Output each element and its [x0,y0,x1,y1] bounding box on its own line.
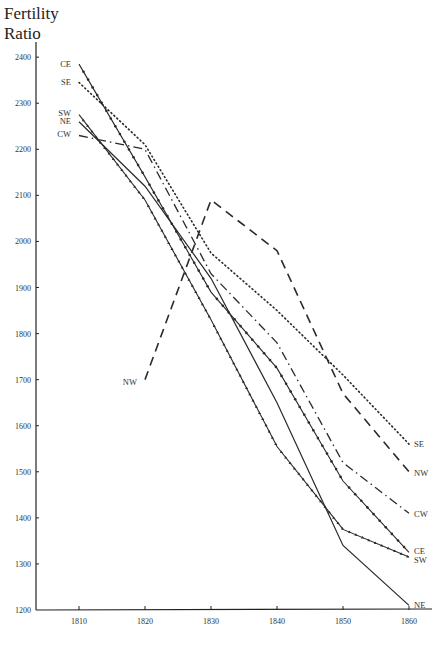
y-tick-label: 1800 [15,330,31,339]
series-labels: CECESESESWSWNENECWCWNWNW [57,59,428,610]
x-tick-label: 1860 [401,617,417,626]
series-label-end-cw: CW [414,509,428,519]
x-tick-label: 1850 [335,617,351,626]
x-axis-line [36,609,432,610]
series-label-end-nw: NW [414,468,428,478]
y-tick-label: 2200 [15,145,31,154]
series-lines [79,64,409,605]
y-tick-label: 2100 [15,191,31,200]
series-label-start-se: SE [61,77,71,87]
axes: 1200130014001500160017001800190020002100… [15,42,432,626]
series-line-ne [79,122,409,606]
series-line-se [79,83,409,445]
series-label-end-sw: SW [414,555,427,565]
series-line-ce [79,64,409,552]
fertility-ratio-line-chart: 1200130014001500160017001800190020002100… [0,0,444,645]
series-label-start-ne: NE [60,116,71,126]
y-tick-label: 2300 [15,99,31,108]
x-tick-label: 1810 [71,617,87,626]
y-tick-label: 1300 [15,560,31,569]
y-tick-label: 1700 [15,376,31,385]
series-label-start-nw: NW [123,377,137,387]
series-line-sw [79,115,409,557]
y-tick-label: 2000 [15,237,31,246]
y-tick-label: 1900 [15,284,31,293]
y-tick-label: 1400 [15,514,31,523]
y-tick-label: 1600 [15,422,31,431]
series-line-cw [79,136,409,514]
series-label-end-ne: NE [414,600,425,610]
x-tick-label: 1830 [203,617,219,626]
series-label-end-se: SE [414,439,424,449]
y-tick-label: 2400 [15,53,31,62]
x-tick-label: 1840 [269,617,285,626]
y-tick-label: 1500 [15,468,31,477]
x-tick-label: 1820 [137,617,153,626]
series-label-start-cw: CW [57,129,71,139]
y-tick-label: 1200 [15,606,31,615]
series-label-start-ce: CE [60,59,71,69]
